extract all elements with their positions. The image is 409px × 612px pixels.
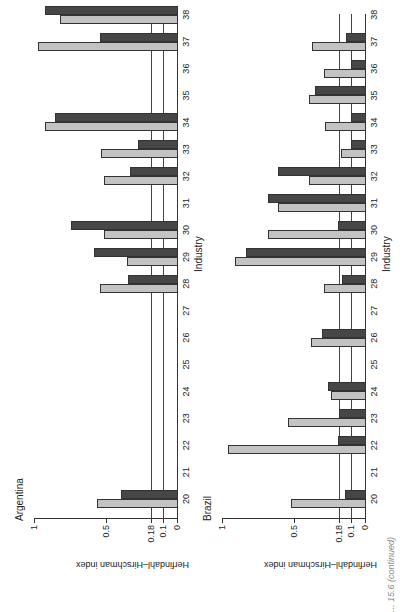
panel-title: Argentina	[14, 478, 25, 521]
bar-dark	[342, 275, 366, 284]
bar-dark	[278, 167, 366, 176]
reference-line	[151, 14, 152, 519]
bar-dark	[345, 490, 366, 499]
bar-light	[228, 445, 366, 454]
category-label: 21	[369, 462, 379, 482]
bar-light	[311, 338, 366, 347]
bar-dark	[121, 490, 178, 499]
category-label: 23	[369, 408, 379, 428]
reference-line	[163, 14, 164, 519]
category-label: 38	[369, 5, 379, 25]
bar-light	[45, 122, 178, 131]
y-tick-label: 0.18	[146, 525, 156, 555]
y-tick-label: 0.18	[334, 525, 344, 555]
category-label: 27	[369, 301, 379, 321]
bar-dark	[328, 382, 366, 391]
bar-dark	[351, 60, 366, 69]
y-tick	[339, 519, 340, 523]
bar-light	[309, 176, 366, 185]
brazil-panel: Brazil00.10.180.51Herfindahl–Hirschman i…	[188, 0, 388, 612]
category-label: 33	[369, 139, 379, 159]
argentina-panel: Argentina00.10.180.51Herfindahl–Hirschma…	[0, 0, 200, 612]
x-axis	[177, 14, 178, 519]
bar-dark	[351, 140, 366, 149]
bar-dark	[100, 33, 178, 42]
y-tick-label: 0.1	[346, 525, 356, 555]
bar-light	[325, 122, 366, 131]
bar-light	[341, 149, 366, 158]
y-axis-label: Herfindahl–Hirschman index	[264, 560, 377, 570]
bar-dark	[45, 6, 178, 15]
bar-dark	[268, 194, 366, 203]
y-tick-label: 0	[172, 525, 182, 555]
y-tick	[222, 519, 223, 523]
y-tick	[177, 519, 178, 523]
category-label: 20	[369, 489, 379, 509]
category-label: 25	[369, 355, 379, 375]
category-label: 32	[369, 166, 379, 186]
bar-dark	[246, 248, 366, 257]
bar-light	[104, 176, 178, 185]
y-tick	[163, 519, 164, 523]
y-tick	[365, 519, 366, 523]
y-tick-label: 0.5	[289, 525, 299, 555]
category-label: 31	[369, 193, 379, 213]
rotated-figure: Argentina00.10.180.51Herfindahl–Hirschma…	[0, 0, 409, 612]
x-axis-label: Industry	[381, 236, 392, 272]
bar-light	[268, 230, 366, 239]
figure-caption: ... 15.6 (continued)	[386, 537, 396, 612]
bar-light	[291, 499, 366, 508]
y-tick	[106, 519, 107, 523]
y-axis-label: Herfindahl–Hirschman index	[76, 560, 189, 570]
y-tick	[34, 519, 35, 523]
y-tick-label: 0	[360, 525, 370, 555]
bar-light	[324, 69, 366, 78]
bar-light	[38, 42, 178, 51]
bar-light	[278, 203, 366, 212]
y-tick	[351, 519, 352, 523]
bar-dark	[315, 87, 366, 96]
bar-light	[288, 418, 366, 427]
category-label: 28	[369, 274, 379, 294]
bar-light	[312, 42, 366, 51]
bar-light	[309, 96, 366, 105]
category-label: 24	[369, 381, 379, 401]
y-tick-label: 0.1	[158, 525, 168, 555]
category-label: 29	[369, 247, 379, 267]
bar-dark	[346, 33, 366, 42]
bar-light	[331, 391, 366, 400]
bar-light	[101, 149, 178, 158]
bar-dark	[71, 221, 178, 230]
bar-dark	[130, 167, 178, 176]
bar-dark	[94, 248, 178, 257]
bar-dark	[351, 113, 366, 122]
panel-title: Brazil	[202, 496, 213, 521]
bar-dark	[55, 113, 178, 122]
bar-dark	[138, 140, 178, 149]
y-tick	[294, 519, 295, 523]
bar-dark	[339, 409, 366, 418]
bar-light	[97, 499, 178, 508]
category-label: 37	[369, 32, 379, 52]
category-label: 22	[369, 435, 379, 455]
y-tick-label: 1	[217, 525, 227, 555]
bar-light	[60, 15, 178, 24]
bar-dark	[338, 436, 366, 445]
category-label: 36	[369, 59, 379, 79]
y-tick	[151, 519, 152, 523]
bar-light	[324, 284, 366, 293]
bar-light	[100, 284, 178, 293]
category-label: 26	[369, 328, 379, 348]
category-label: 35	[369, 86, 379, 106]
bar-dark	[338, 221, 366, 230]
y-tick-label: 1	[29, 525, 39, 555]
bar-dark	[128, 275, 178, 284]
bar-light	[127, 257, 178, 266]
bar-light	[235, 257, 366, 266]
category-label: 34	[369, 112, 379, 132]
category-label: 30	[369, 220, 379, 240]
bar-light	[104, 230, 178, 239]
bar-dark	[322, 329, 366, 338]
y-tick-label: 0.5	[101, 525, 111, 555]
